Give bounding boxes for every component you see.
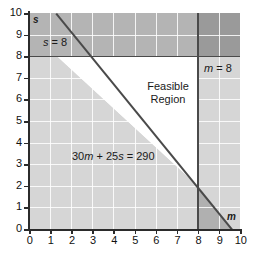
x-tick-label-8: 8 [189, 234, 209, 246]
y-tick-6 [24, 99, 29, 101]
y-tick-3 [24, 164, 29, 166]
x-tick-label-9: 9 [210, 234, 230, 246]
y-tick-label-5: 5 [2, 114, 22, 126]
x-tick-label-6: 6 [146, 234, 166, 246]
y-tick-7 [24, 78, 29, 80]
m-constraint-variable: m [204, 62, 213, 74]
y-tick-0 [24, 229, 29, 231]
m-constraint-rest: = 8 [213, 62, 232, 74]
x-tick-label-0: 0 [20, 234, 40, 246]
x-axis-variable-label: m [227, 211, 236, 222]
y-tick-9 [24, 35, 29, 37]
x-tick-label-1: 1 [41, 234, 61, 246]
equation-label: 30m + 25s = 290 [72, 150, 155, 162]
m-constraint-label: m = 8 [204, 62, 232, 74]
y-tick-label-1: 1 [2, 200, 22, 212]
s-constraint-label: s = 8 [43, 36, 67, 48]
constraint-line-m-equals-8 [197, 13, 199, 229]
equation-operator: + 25 [93, 150, 118, 162]
feasible-region-chart: s m s = 8 m = 8 30m + 25s = 290 Feasible… [0, 0, 257, 261]
x-tick-label-10: 10 [231, 234, 251, 246]
y-tick-5 [24, 121, 29, 123]
y-tick-label-10: 10 [0, 6, 22, 18]
y-tick-label-3: 3 [2, 157, 22, 169]
y-tick-label-9: 9 [2, 28, 22, 40]
y-tick-8 [24, 56, 29, 58]
y-tick-label-6: 6 [2, 92, 22, 104]
s-constraint-rest: = 8 [49, 36, 68, 48]
x-tick-label-7: 7 [168, 234, 188, 246]
y-tick-label-2: 2 [2, 179, 22, 191]
y-tick-label-4: 4 [2, 136, 22, 148]
feasible-region-label: Feasible Region [133, 80, 203, 106]
constraint-line-s-equals-8 [29, 56, 240, 58]
feasible-label-line1: Feasible [133, 80, 203, 93]
y-tick-4 [24, 143, 29, 145]
equation-rhs: = 290 [124, 150, 155, 162]
y-tick-label-0: 0 [2, 222, 22, 234]
x-tick-label-5: 5 [125, 234, 145, 246]
x-tick-label-4: 4 [104, 234, 124, 246]
y-tick-2 [24, 186, 29, 188]
x-tick-label-2: 2 [62, 234, 82, 246]
y-tick-10 [24, 13, 29, 15]
y-tick-label-8: 8 [2, 49, 22, 61]
feasible-label-line2: Region [133, 93, 203, 106]
x-tick-label-3: 3 [83, 234, 103, 246]
y-tick-label-7: 7 [2, 71, 22, 83]
y-tick-1 [24, 207, 29, 209]
equation-coeff-m: 30 [72, 150, 84, 162]
y-axis-variable-label: s [33, 14, 39, 25]
plot-area: s m s = 8 m = 8 30m + 25s = 290 Feasible… [29, 13, 240, 229]
